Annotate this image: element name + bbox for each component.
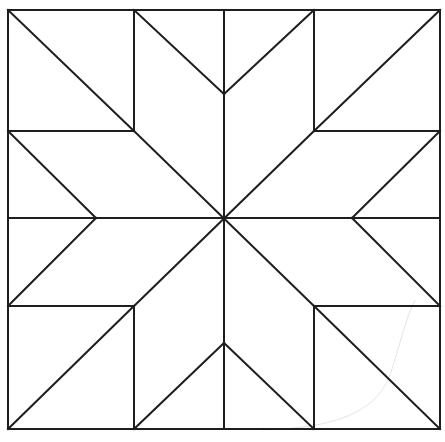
- quilt-block-diagram: [0, 0, 445, 442]
- top-v-right-line: [224, 10, 314, 94]
- faint-curve-artifact: [262, 300, 415, 430]
- top-left-corner-diagonal-line: [8, 10, 134, 131]
- segment-group: [8, 10, 440, 429]
- bottom-left-corner-diagonal-line: [8, 306, 134, 429]
- bottom-right-corner-diagonal-line: [314, 306, 440, 429]
- left-v-top-line: [8, 131, 96, 218]
- bottom-v-right-line: [224, 343, 314, 429]
- bottom-v-left-line: [134, 343, 224, 429]
- quilt-block-svg: [0, 0, 445, 442]
- right-v-bottom-line: [352, 218, 440, 306]
- top-v-left-line: [134, 10, 224, 94]
- top-right-corner-diagonal-line: [314, 10, 440, 131]
- left-v-bottom-line: [8, 218, 96, 306]
- right-v-top-line: [352, 131, 440, 218]
